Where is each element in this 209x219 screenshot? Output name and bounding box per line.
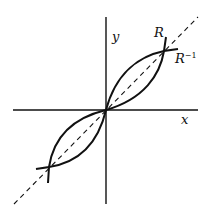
diagram-canvas (0, 0, 209, 219)
curve-r-label: R (154, 26, 164, 39)
curve-r-inverse-label: R−1 (175, 52, 197, 65)
y-axis-label: y (112, 30, 119, 43)
curve-r-inverse-label-base: R (175, 51, 185, 66)
curve-r-inverse (36, 49, 178, 169)
curve-r-inverse-label-exponent: −1 (185, 51, 197, 60)
relation-inverse-diagram: y x R R−1 (0, 0, 209, 219)
x-axis-label: x (181, 113, 188, 126)
